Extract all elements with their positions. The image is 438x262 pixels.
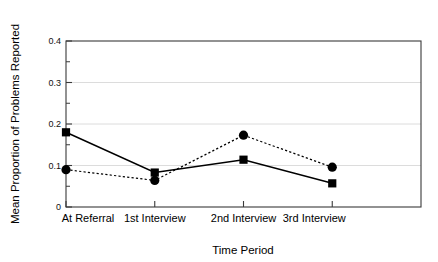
x-axis-title: Time Period xyxy=(212,244,274,256)
data-point-square xyxy=(62,128,70,136)
y-tick-label: 0.3 xyxy=(48,78,61,88)
x-tick-label: 3rd Interview xyxy=(283,212,346,224)
data-point-square xyxy=(151,168,159,176)
chart-figure: 00.10.20.30.4 At Referral1st Interview2n… xyxy=(0,0,438,262)
data-point-square xyxy=(239,156,247,164)
y-axis-title: Mean Proportion of Problems Reported xyxy=(9,24,21,224)
data-point-circle xyxy=(328,163,337,172)
y-tick-label: 0.2 xyxy=(48,119,61,129)
y-tick-label: 0 xyxy=(56,202,61,212)
data-point-circle xyxy=(61,165,70,174)
x-tick-label: 1st Interview xyxy=(124,212,186,224)
line-chart: 00.10.20.30.4 At Referral1st Interview2n… xyxy=(0,0,438,262)
y-tick-label: 0.4 xyxy=(48,36,61,46)
data-point-circle xyxy=(239,131,248,140)
data-point-circle xyxy=(150,176,159,185)
x-tick-label: At Referral xyxy=(62,212,115,224)
data-point-square xyxy=(328,179,336,187)
x-tick-label: 2nd Interview xyxy=(211,212,276,224)
y-tick-label: 0.1 xyxy=(48,161,61,171)
